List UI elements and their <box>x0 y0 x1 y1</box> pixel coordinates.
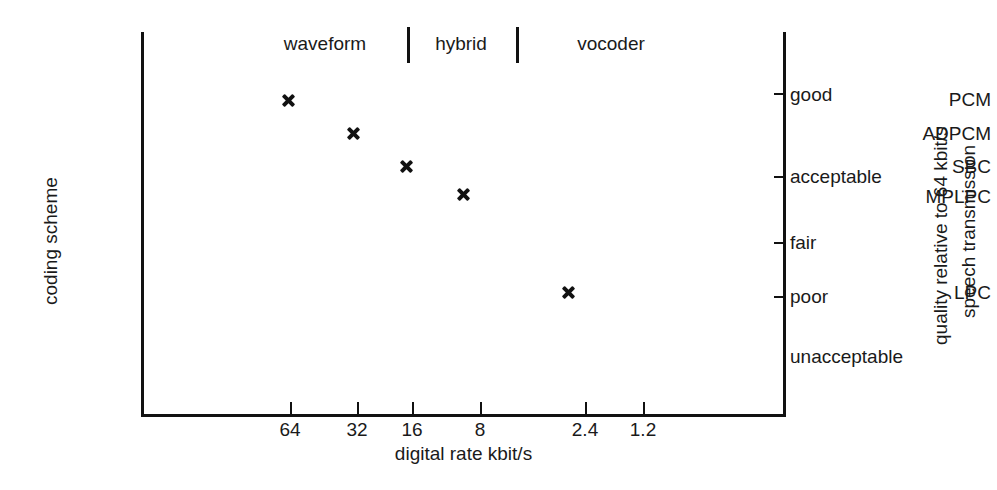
x-tick-2-4 <box>585 402 587 415</box>
x-tick-1-2 <box>643 402 645 415</box>
data-point-mplpc <box>455 186 472 203</box>
y-axis-right-title-line2: speech transmission <box>958 145 980 318</box>
data-point-pcm <box>280 92 297 109</box>
data-point-sbc <box>398 158 415 175</box>
y-right-label-fair: fair <box>790 232 816 254</box>
x-label-64: 64 <box>260 419 320 441</box>
group-divider-2 <box>516 27 519 63</box>
data-point-adpcm <box>345 125 362 142</box>
y-axis-right-line <box>783 32 786 417</box>
x-tick-64 <box>290 402 292 415</box>
y-right-label-poor: poor <box>790 286 828 308</box>
x-axis-line <box>141 414 786 417</box>
y-right-tick-poor <box>774 296 786 298</box>
x-tick-16 <box>412 402 414 415</box>
scheme-label-pcm: PCM <box>862 89 997 111</box>
data-point-lpc <box>560 284 577 301</box>
group-label-waveform: waveform <box>284 33 366 55</box>
x-label-2-4: 2.4 <box>555 419 615 441</box>
y-axis-right-title-line1: quality relative to 64 kbit/s <box>930 126 952 345</box>
x-tick-8 <box>480 402 482 415</box>
group-label-hybrid: hybrid <box>435 33 487 55</box>
y-right-tick-acceptable <box>774 176 786 178</box>
x-label-32: 32 <box>327 419 387 441</box>
group-label-vocoder: vocoder <box>577 33 645 55</box>
y-right-label-unacceptable: unacceptable <box>790 346 903 368</box>
x-tick-32 <box>357 402 359 415</box>
x-label-8: 8 <box>450 419 510 441</box>
x-label-16: 16 <box>382 419 442 441</box>
x-axis-title: digital rate kbit/s <box>141 443 786 465</box>
y-right-label-acceptable: acceptable <box>790 166 882 188</box>
x-label-1-2: 1.2 <box>613 419 673 441</box>
y-axis-left-line <box>141 32 144 417</box>
y-right-tick-good <box>774 93 786 95</box>
speech-coding-quality-chart: waveform hybrid vocoder PCM ADPCM SBC MP… <box>0 0 997 490</box>
y-axis-left-title: coding scheme <box>40 177 62 305</box>
group-divider-1 <box>407 27 410 63</box>
y-right-label-good: good <box>790 84 832 106</box>
y-right-tick-fair <box>774 242 786 244</box>
